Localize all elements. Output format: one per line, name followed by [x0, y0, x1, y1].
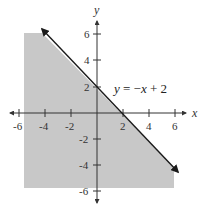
x-tick-label: -4	[39, 120, 49, 132]
x-tick-label: 2	[120, 120, 126, 132]
y-tick-label: 6	[84, 28, 90, 40]
x-tick-label: 6	[172, 120, 178, 132]
x-tick-label: -6	[13, 120, 23, 132]
y-tick-label: -6	[79, 185, 89, 197]
x-tick-label: 4	[146, 120, 152, 132]
graph-canvas: -6 -4 -2 2 4 6 6 4 2 -2 -4 -6 x y y = −x…	[0, 0, 202, 208]
y-tick-label: -2	[79, 133, 88, 145]
x-axis-label: x	[191, 106, 198, 120]
x-tick-label: -2	[65, 120, 74, 132]
y-tick-label: 4	[84, 54, 90, 66]
y-tick-label: -4	[79, 159, 89, 171]
equation-label: y = −x + 2	[112, 81, 167, 96]
y-axis-label: y	[93, 3, 100, 17]
y-tick-label: 2	[84, 81, 90, 93]
